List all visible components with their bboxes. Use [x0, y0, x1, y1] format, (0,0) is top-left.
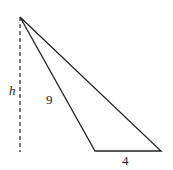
base-label-4: 4	[122, 153, 129, 168]
height-label: h	[9, 83, 16, 98]
side-label-9: 9	[46, 92, 53, 107]
obtuse-triangle	[20, 17, 161, 151]
triangle-diagram: h 9 4	[0, 0, 173, 170]
